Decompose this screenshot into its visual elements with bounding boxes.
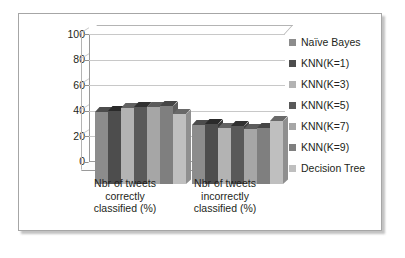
axis-tick-80	[84, 60, 89, 61]
legend-item-3[interactable]: KNN(K=5)	[289, 95, 381, 116]
axis-tick-20	[84, 136, 89, 137]
legend-swatch-icon	[289, 144, 296, 151]
bar-1-3	[231, 126, 244, 184]
bar-0-2	[121, 108, 134, 184]
bar-front-face	[270, 121, 283, 184]
axis-tick-40	[84, 111, 89, 112]
bar-front-face	[134, 107, 147, 184]
legend-item-6[interactable]: Decision Tree	[289, 158, 381, 179]
bar-front-face	[173, 114, 186, 184]
category-label-line-3: classified (%)	[177, 202, 273, 215]
category-label-line-2: incorrectly	[177, 190, 273, 203]
axis-tick-60	[84, 85, 89, 86]
legend-item-label: KNN(K=5)	[301, 100, 349, 111]
bar-front-face	[257, 128, 270, 184]
bar-1-2	[218, 128, 231, 184]
category-label-line-2: correctly	[77, 190, 173, 203]
legend-item-5[interactable]: KNN(K=9)	[289, 137, 381, 158]
plot-area: 100 80 60 40 20 0 Nbr of tweets	[57, 34, 285, 184]
bar-1-0	[192, 125, 205, 184]
legend-swatch-icon	[289, 165, 296, 172]
plot-depth-top-edge	[89, 25, 293, 34]
legend-item-label: Decision Tree	[301, 163, 365, 174]
category-label-line-1: Nbr of tweets	[77, 177, 173, 190]
legend-item-label: KNN(K=3)	[301, 79, 349, 90]
legend-item-4[interactable]: KNN(K=7)	[289, 116, 381, 137]
bar-0-1	[108, 111, 121, 184]
bar-1-6	[270, 121, 283, 184]
bar-front-face	[147, 107, 160, 184]
legend-swatch-icon	[289, 39, 296, 46]
chart-legend: Naïve BayesKNN(K=1)KNN(K=3)KNN(K=5)KNN(K…	[289, 32, 381, 179]
bar-0-3	[134, 107, 147, 184]
category-label-incorrectly-classified: Nbr of tweets incorrectly classified (%)	[177, 177, 273, 215]
legend-item-label: KNN(K=7)	[301, 121, 349, 132]
bar-group-correctly-classified	[95, 56, 190, 184]
bar-0-0	[95, 112, 108, 184]
axis-tick-100	[84, 34, 89, 35]
bar-group-incorrectly-classified	[192, 56, 287, 184]
legend-item-2[interactable]: KNN(K=3)	[289, 74, 381, 95]
legend-item-label: KNN(K=9)	[301, 142, 349, 153]
bar-0-6	[173, 114, 186, 184]
legend-swatch-icon	[289, 102, 296, 109]
bar-front-face	[205, 124, 218, 184]
legend-swatch-icon	[289, 81, 296, 88]
bar-1-4	[244, 129, 257, 184]
legend-item-0[interactable]: Naïve Bayes	[289, 32, 381, 53]
bar-0-4	[147, 107, 160, 184]
chart-frame: 100 80 60 40 20 0 Nbr of tweets	[18, 13, 382, 231]
legend-swatch-icon	[289, 123, 296, 130]
legend-swatch-icon	[289, 60, 296, 67]
bar-front-face	[160, 106, 173, 184]
bar-front-face	[192, 125, 205, 184]
category-label-line-3: classified (%)	[77, 202, 173, 215]
gridline-100	[89, 34, 285, 35]
bar-side-face	[283, 117, 288, 184]
bar-front-face	[218, 128, 231, 184]
bar-1-1	[205, 124, 218, 184]
bar-front-face	[108, 111, 121, 184]
category-label-correctly-classified: Nbr of tweets correctly classified (%)	[77, 177, 173, 215]
bar-front-face	[95, 112, 108, 184]
category-label-line-1: Nbr of tweets	[177, 177, 273, 190]
bar-0-5	[160, 106, 173, 184]
bar-front-face	[244, 129, 257, 184]
legend-item-label: KNN(K=1)	[301, 58, 349, 69]
legend-item-1[interactable]: KNN(K=1)	[289, 53, 381, 74]
bar-front-face	[231, 126, 244, 184]
bar-1-5	[257, 128, 270, 184]
bar-side-face	[186, 109, 191, 184]
legend-item-label: Naïve Bayes	[301, 37, 361, 48]
bar-front-face	[121, 108, 134, 184]
